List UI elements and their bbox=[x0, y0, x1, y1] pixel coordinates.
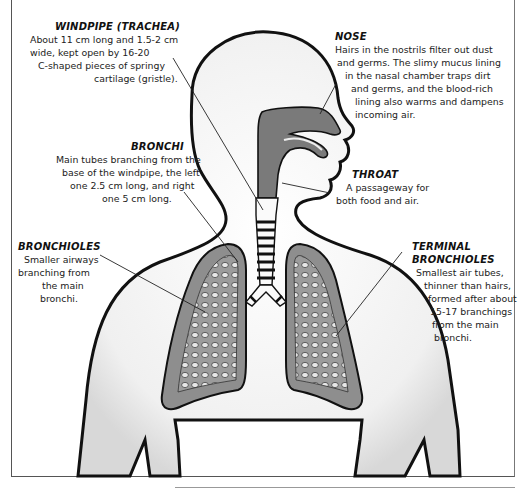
terminal-bronchioles-label: TERMINAL BRONCHIOLES Smallest air tubes,… bbox=[412, 240, 516, 344]
nose-desc-line-5: lining also warms and dampens bbox=[335, 95, 515, 108]
bronchioles-desc-line-2: branching from bbox=[18, 266, 118, 279]
nose-desc-line-3: in the nasal chamber traps dirt bbox=[335, 69, 515, 82]
bronchi-desc-line-1: Main tubes branching from the bbox=[54, 153, 184, 166]
terminal-bronchioles-desc-line-1: Smallest air tubes, bbox=[412, 266, 516, 279]
windpipe-title: WINDPIPE (TRACHEA) bbox=[30, 20, 186, 33]
bronchioles-desc-line-4: bronchi. bbox=[18, 292, 118, 305]
windpipe-label: WINDPIPE (TRACHEA) About 11 cm long and … bbox=[30, 20, 186, 85]
bronchi-desc-line-2: base of the windpipe, the left bbox=[54, 166, 184, 179]
nose-desc-line-2: and germs. The slimy mucus lining bbox=[335, 56, 515, 69]
bronchioles-label: BRONCHIOLES Smaller airways branching fr… bbox=[18, 240, 118, 305]
bronchioles-title: BRONCHIOLES bbox=[18, 240, 118, 253]
terminal-bronchioles-desc-line-6: bronchi. bbox=[412, 331, 516, 344]
throat-desc-line-1: A passageway for bbox=[336, 181, 446, 194]
windpipe-desc-line-1: About 11 cm long and 1.5-2 cm bbox=[30, 33, 186, 46]
throat-label: THROAT A passageway for both food and ai… bbox=[336, 168, 446, 207]
bronchi-desc-line-4: one 5 cm long. bbox=[54, 192, 184, 205]
nose-title: NOSE bbox=[335, 30, 515, 43]
windpipe-desc-line-3: C-shaped pieces of springy bbox=[30, 59, 186, 72]
bronchi-desc-line-3: one 2.5 cm long, and right bbox=[54, 179, 184, 192]
throat-title: THROAT bbox=[336, 168, 446, 181]
bronchi-label: BRONCHI Main tubes branching from the ba… bbox=[54, 140, 184, 205]
nose-desc-line-1: Hairs in the nostrils filter out dust bbox=[335, 43, 515, 56]
terminal-bronchioles-desc-line-3: formed after about bbox=[412, 292, 516, 305]
nose-desc-line-6: incoming air. bbox=[335, 108, 515, 121]
throat-desc-line-2: both food and air. bbox=[336, 194, 446, 207]
terminal-bronchioles-desc-line-2: thinner than hairs, bbox=[412, 279, 516, 292]
terminal-bronchioles-desc-line-5: from the main bbox=[412, 318, 516, 331]
nose-desc-line-4: and germs, and the blood-rich bbox=[335, 82, 515, 95]
bronchi-title: BRONCHI bbox=[54, 140, 184, 153]
nose-label: NOSE Hairs in the nostrils filter out du… bbox=[335, 30, 515, 121]
windpipe-desc-line-4: cartilage (gristle). bbox=[30, 72, 186, 85]
windpipe-desc-line-2: wide, kept open by 16-20 bbox=[30, 46, 186, 59]
terminal-bronchioles-title-2: BRONCHIOLES bbox=[412, 253, 516, 266]
bronchioles-desc-line-3: the main bbox=[18, 279, 118, 292]
terminal-bronchioles-title-1: TERMINAL bbox=[412, 240, 516, 253]
terminal-bronchioles-desc-line-4: 15-17 branchings bbox=[412, 305, 516, 318]
bronchioles-desc-line-1: Smaller airways bbox=[18, 253, 118, 266]
